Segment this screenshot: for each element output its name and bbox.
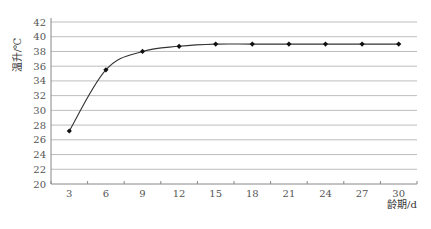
line-chart: 202224262830323436384042 369121518212427… [0,0,431,229]
y-tick-label: 40 [33,31,46,42]
y-axis-ticks: 202224262830323436384042 [33,17,46,190]
y-tick-label: 20 [33,179,46,190]
diamond-marker [286,41,291,46]
y-tick-label: 24 [33,149,46,160]
x-tick-label: 6 [103,188,109,199]
x-tick-label: 30 [392,188,405,199]
diamond-marker [250,41,255,46]
data-markers [67,41,402,133]
y-tick-label: 38 [33,46,46,57]
y-tick-label: 22 [33,164,46,175]
y-tick-label: 34 [33,75,46,86]
series-line [69,44,398,131]
y-tick-label: 42 [33,17,46,28]
x-tick-label: 18 [246,188,259,199]
diamond-marker [67,128,72,133]
x-tick-label: 12 [173,188,186,199]
x-tick-label: 15 [209,188,222,199]
x-tick-label: 9 [139,188,145,199]
diamond-marker [396,41,401,46]
diamond-marker [213,41,218,46]
x-tick-label: 24 [319,188,332,199]
diamond-marker [360,41,365,46]
x-tick-label: 3 [66,188,72,199]
y-tick-label: 36 [33,61,46,72]
y-tick-label: 32 [33,90,46,101]
y-tick-label: 26 [33,134,46,145]
x-tick-label: 21 [283,188,296,199]
y-tick-label: 28 [33,120,46,131]
x-axis-label: 龄期/d [387,198,417,210]
diamond-marker [177,44,182,49]
diamond-marker [140,49,145,54]
y-tick-label: 30 [33,105,46,116]
x-tick-label: 27 [356,188,369,199]
y-axis-label: 温升/℃ [12,38,23,73]
diamond-marker [323,41,328,46]
